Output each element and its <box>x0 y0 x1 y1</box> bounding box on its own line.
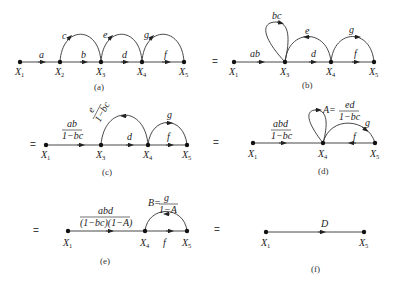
node-x1 <box>251 141 255 145</box>
label-e: e <box>305 25 310 36</box>
caption-e: (e) <box>100 256 110 266</box>
node-x3 <box>283 60 287 64</box>
equals-sign: = <box>214 224 220 235</box>
equals-sign: = <box>30 139 36 150</box>
equals-sign: = <box>33 225 39 236</box>
node-x5 <box>185 143 189 147</box>
node-label-x1: X1 <box>260 237 270 249</box>
node-label-x1: X1 <box>14 66 24 78</box>
arrow-bc-icon <box>277 22 281 23</box>
label-c: c <box>62 30 67 41</box>
caption-b: (b) <box>302 80 313 90</box>
label-b-denominator: 1−A <box>159 204 178 215</box>
node-x1 <box>232 60 236 64</box>
label-f: f <box>353 131 357 142</box>
node-x1 <box>264 230 268 234</box>
node-x5 <box>372 60 376 64</box>
label-a-numerator: ed <box>345 99 355 110</box>
panel-e: = abd (1−bc)(1−A) B= g 1−A f X1 X4 X5 (e… <box>33 192 191 266</box>
label-abd-denominator: 1−bc <box>271 130 293 141</box>
node-x4 <box>143 229 147 233</box>
node-label-x1: X1 <box>40 149 50 161</box>
label-g: g <box>144 29 149 40</box>
node-x1 <box>18 60 22 64</box>
node-label-x5: X5 <box>181 149 191 161</box>
caption-d: (d) <box>318 166 329 176</box>
caption-c: (c) <box>102 167 112 177</box>
label-b-numerator: g <box>164 192 169 203</box>
node-x5 <box>185 229 189 233</box>
node-x3 <box>99 143 103 147</box>
node-label-x1: X1 <box>228 66 238 78</box>
node-x5 <box>182 60 186 64</box>
node-x1 <box>66 229 70 233</box>
node-x1 <box>44 143 48 147</box>
caption-a: (a) <box>94 82 104 92</box>
label-f: f <box>164 49 168 60</box>
label-b: b <box>81 49 86 60</box>
node-label-x4: X4 <box>136 66 147 78</box>
node-label-x3: X3 <box>95 66 105 78</box>
label-d: d <box>311 48 317 59</box>
label-g: g <box>349 24 354 35</box>
panel-f: = D X1 X5 (f) <box>214 218 368 274</box>
label-a: a <box>39 49 44 60</box>
label-bc: bc <box>272 10 282 21</box>
label-e: e <box>103 29 108 40</box>
label-f: f <box>163 237 167 248</box>
panel-c: = ab 1−bc e 1−bc d f g X1 X3 X4 X5 (c) <box>30 94 191 177</box>
node-label-x2: X2 <box>54 66 64 78</box>
node-label-x3: X3 <box>95 149 105 161</box>
label-f: f <box>354 48 358 59</box>
node-label-x3: X3 <box>279 66 289 78</box>
node-x4 <box>321 141 325 145</box>
node-x2 <box>58 60 62 64</box>
node-label-x4: X4 <box>139 237 150 249</box>
caption-f: (f) <box>311 264 320 274</box>
node-x3 <box>99 60 103 64</box>
label-d: D <box>320 218 329 229</box>
node-label-x1: X1 <box>247 148 257 160</box>
node-x5 <box>362 230 366 234</box>
signal-flow-graph-figure: a b d f c e g X1 X2 X3 X4 X5 (a) = ab d … <box>0 0 394 285</box>
label-abd-numerator: abd <box>273 118 289 129</box>
node-label-x5: X5 <box>358 237 368 249</box>
label-a-denominator: 1−bc <box>339 111 361 122</box>
equals-sign: = <box>213 137 219 148</box>
node-x4 <box>146 143 150 147</box>
node-label-x5: X5 <box>178 66 188 78</box>
label-a-prefix: A= <box>322 104 336 115</box>
node-label-x1: X1 <box>62 237 72 249</box>
svg-text:1−bc: 1−bc <box>92 99 112 123</box>
self-loop-bc <box>266 22 288 62</box>
label-f: f <box>167 131 171 142</box>
arc-e <box>285 37 331 63</box>
node-label-x4: X4 <box>325 66 336 78</box>
label-ab-numerator: ab <box>67 118 77 129</box>
panel-a: a b d f c e g X1 X2 X3 X4 X5 (a) <box>14 29 188 92</box>
label-g: g <box>365 117 370 128</box>
label-g: g <box>167 109 172 120</box>
label-abd-denominator: (1−bc)(1−A) <box>80 217 133 229</box>
node-x4 <box>140 60 144 64</box>
label-abd-numerator: abd <box>98 205 114 216</box>
label-ab-denominator: 1−bc <box>62 130 84 141</box>
label-ab: ab <box>250 48 260 59</box>
panel-b: = ab d f bc e g X1 X3 X4 X5 (b) <box>212 10 378 90</box>
panel-d: = abd 1−bc A= ed 1−bc g f X1 X4 X5 (d) <box>213 99 379 176</box>
label-d: d <box>127 131 133 142</box>
node-x4 <box>329 60 333 64</box>
equals-sign: = <box>212 56 218 67</box>
label-e-bc: e 1−bc <box>82 94 112 124</box>
node-label-x5: X5 <box>369 148 379 160</box>
label-d: d <box>122 49 128 60</box>
arc-e-bc <box>101 115 148 145</box>
node-label-x5: X5 <box>368 66 378 78</box>
node-label-x4: X4 <box>317 148 328 160</box>
arc-g <box>331 37 374 63</box>
node-label-x4: X4 <box>142 149 153 161</box>
node-label-x5: X5 <box>181 237 191 249</box>
node-x5 <box>373 141 377 145</box>
